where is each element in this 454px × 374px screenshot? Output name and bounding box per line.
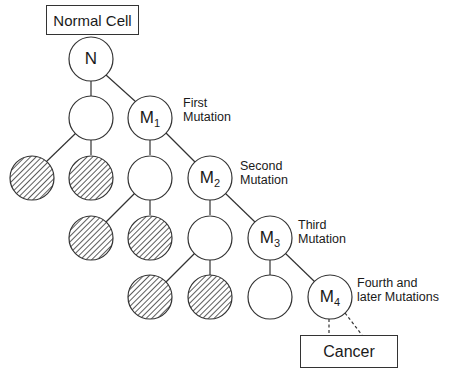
cancer-box: Cancer [300,335,398,368]
cell-hatched [128,216,172,260]
annotation-first-mutation: First Mutation [183,96,231,124]
annotation-fourth-mutation: Fourth and later Mutations [357,276,439,304]
cell-empty [188,216,232,260]
cell-empty [69,96,113,140]
cell-empty [128,156,172,200]
cell-hatched [128,275,172,319]
annotation-third-mutation: Third Mutation [298,218,346,246]
cell-hatched [188,275,232,319]
node-subscript: 2 [214,177,220,189]
annotation-second-mutation: Second Mutation [240,159,288,187]
cell-hatched [69,156,113,200]
node-subscript: 3 [274,237,280,249]
node-subscript: 4 [334,296,340,308]
node-letter: M [140,108,154,127]
node-label-m4: M4 [308,288,352,308]
node-label-m3: M3 [248,229,292,249]
normal-cell-box: Normal Cell [46,5,139,35]
node-letter: M [260,228,274,247]
node-label-n: N [69,50,113,67]
cell-empty [248,275,292,319]
cell-hatched [10,156,54,200]
node-letter: N [85,49,97,68]
node-letter: M [200,168,214,187]
node-subscript: 1 [154,117,160,129]
node-letter: M [320,287,334,306]
cell-hatched [69,216,113,260]
node-label-m1: M1 [128,109,172,129]
node-label-m2: M2 [188,169,232,189]
